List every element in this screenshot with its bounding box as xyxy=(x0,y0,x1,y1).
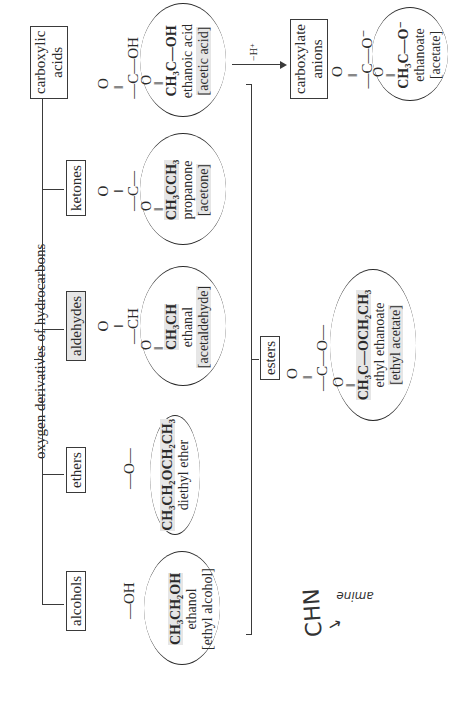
group-formula: —C—OH xyxy=(126,33,141,103)
example-name: ethanoate xyxy=(412,13,428,97)
double-bond: ‖ xyxy=(153,11,164,111)
example-formula: CH₃C—O⁻ xyxy=(396,13,412,97)
title-tick xyxy=(34,359,42,360)
group-carboxylate: O ‖ —C—O⁻ xyxy=(330,19,375,99)
example-esters: O ‖ CH₃C—OCH₂CH₃ ethyl ethanoate [ethyl … xyxy=(332,275,404,415)
category-label: ketones xyxy=(68,165,84,211)
branch-ethers xyxy=(42,474,64,475)
group-carboxylic: O ‖ —C—OH xyxy=(96,33,141,103)
double-bond: ‖ xyxy=(345,275,356,415)
carbonyl-o: O xyxy=(330,19,345,99)
example-name: diethyl ether xyxy=(176,419,192,531)
example-common-name: [acetate] xyxy=(428,13,444,97)
example-common-name: [acetic acid] xyxy=(196,27,211,96)
category-label: aldehydes xyxy=(68,296,84,356)
category-label: alcohols xyxy=(68,576,84,626)
carbonyl-o: O xyxy=(332,275,345,415)
category-aldehydes: aldehydes xyxy=(66,291,86,361)
diagram-canvas: oxygen derivatives of hydrocarbons alcoh… xyxy=(0,0,471,711)
example-name: ethanoic acid xyxy=(180,11,196,111)
branch-aldehydes xyxy=(42,329,64,330)
carbonyl-o: O xyxy=(372,13,385,97)
example-name: ethyl ethanoate xyxy=(372,275,388,415)
example-common-name: [acetone] xyxy=(196,164,211,216)
example-name: ethanol xyxy=(184,561,200,657)
category-label-line1: carboxylic xyxy=(32,31,49,94)
group-ethers: —O— xyxy=(122,448,137,489)
double-bond: ‖ xyxy=(111,171,126,211)
carbonyl-o: O xyxy=(140,276,153,378)
group-formula: —C—O— xyxy=(315,323,330,393)
handwritten-amine: amine xyxy=(336,589,373,603)
category-esters: esters xyxy=(260,336,280,380)
double-bond: ‖ xyxy=(153,143,164,237)
example-formula: CH₃C—OH xyxy=(164,11,180,111)
handwritten-arrow-icon: → xyxy=(324,613,345,636)
category-alcohols: alcohols xyxy=(66,571,86,631)
category-label: ethers xyxy=(68,452,84,488)
example-common-name: [ethyl acetate] xyxy=(388,305,403,385)
category-label-line1: carboxylate xyxy=(292,24,309,94)
branch-alcohols xyxy=(42,604,64,605)
double-bond: ‖ xyxy=(300,323,315,393)
carbonyl-o: O xyxy=(96,171,111,211)
header-bracket-line xyxy=(42,64,43,605)
ester-bracket-hook-right xyxy=(246,84,251,85)
example-formula: CH₃CH xyxy=(164,304,179,350)
example-ethers: CH₃CH₂OCH₂CH₃ diethyl ether xyxy=(160,419,192,531)
carbonyl-o: O xyxy=(96,33,111,103)
diagram-title: oxygen derivatives of hydrocarbons xyxy=(32,244,49,459)
category-ethers: ethers xyxy=(66,447,86,493)
double-bond: ‖ xyxy=(111,301,126,351)
carbonyl-o: O xyxy=(140,11,153,111)
carbonyl-o: O xyxy=(140,143,153,237)
group-alcohols: —OH xyxy=(122,582,137,619)
double-bond: ‖ xyxy=(153,276,164,378)
category-label: esters xyxy=(262,341,278,375)
category-carboxylate-anions: carboxylate anions xyxy=(290,19,328,99)
group-aldehydes: O ‖ —CH xyxy=(96,301,141,351)
category-carboxylic-acids: carboxylic acids xyxy=(30,26,68,99)
category-ketones: ketones xyxy=(66,160,86,216)
example-formula: CH₃CH₂OCH₂CH₃ xyxy=(160,419,175,531)
example-carboxylic: O ‖ CH₃C—OH ethanoic acid [acetic acid] xyxy=(140,11,212,111)
example-formula: CH₃C—OCH₂CH₃ xyxy=(356,290,371,401)
double-bond: ‖ xyxy=(111,33,126,103)
group-ketones: O ‖ —C— xyxy=(96,171,141,211)
branch-esters xyxy=(251,359,259,360)
example-formula: CH₃CH₂OH xyxy=(168,573,183,645)
reaction-arrow-line xyxy=(232,64,284,65)
example-alcohols: CH₃CH₂OH ethanol [ethyl alcohol] xyxy=(168,561,216,657)
handwritten-chn: CHN xyxy=(298,588,326,638)
example-carboxylate: O ‖ CH₃C—O⁻ ethanoate [acetate] xyxy=(372,13,444,97)
carbonyl-o: O xyxy=(285,323,300,393)
group-esters: O ‖ —C—O— xyxy=(285,323,330,393)
category-label-line2: acids xyxy=(49,31,66,94)
branch-ketones xyxy=(42,189,64,190)
example-name: ethanal xyxy=(180,276,196,378)
example-common-name: [acetaldehyde] xyxy=(196,286,211,368)
arrow-head-icon xyxy=(280,61,287,69)
example-aldehydes: O ‖ CH₃CH ethanal [acetaldehyde] xyxy=(140,276,212,378)
example-formula: CH₃CCH₃ xyxy=(164,160,179,221)
double-bond: ‖ xyxy=(385,13,396,97)
carbonyl-o: O xyxy=(96,301,111,351)
example-ketones: O ‖ CH₃CCH₃ propanone [acetone] xyxy=(140,143,212,237)
example-name: propanone xyxy=(180,143,196,237)
category-label-line2: anions xyxy=(309,24,326,94)
reaction-label: −H⁺ xyxy=(248,43,259,61)
example-common-name: [ethyl alcohol] xyxy=(200,561,216,657)
double-bond: ‖ xyxy=(345,19,360,99)
ester-bracket-hook-left xyxy=(246,634,251,635)
